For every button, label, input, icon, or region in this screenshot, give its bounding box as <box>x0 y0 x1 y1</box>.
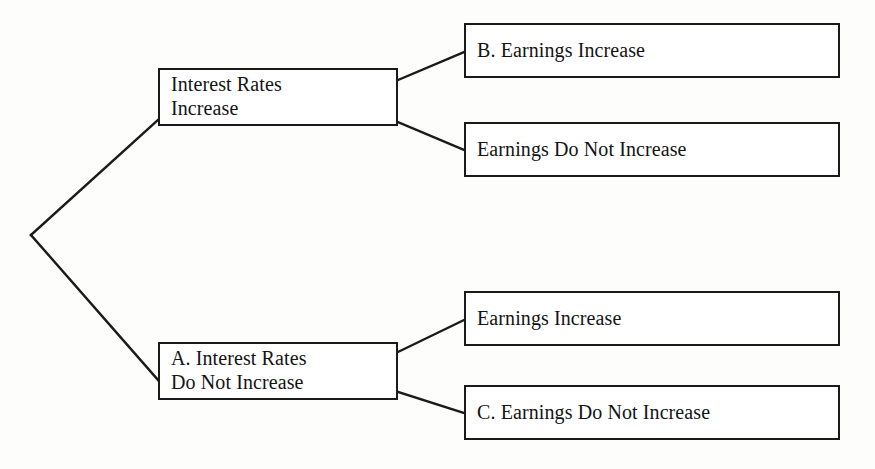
node-earnings-increase-b[interactable]: B. Earnings Increase <box>464 23 840 78</box>
edge-root-to-interest-rates-increase <box>31 120 158 235</box>
node-label-earnings-do-not-increase: Earnings Do Not Increase <box>477 138 687 162</box>
node-label-line: A. Interest Rates <box>171 347 307 371</box>
node-label-earnings-increase: Earnings Increase <box>477 307 621 331</box>
edge-interest-rates-increase-to-b <box>398 52 464 80</box>
node-label-earnings-do-not-increase-c: C. Earnings Do Not Increase <box>477 401 710 425</box>
edge-a-to-earnings-increase <box>398 320 464 352</box>
node-label-line: B. Earnings Increase <box>477 39 645 63</box>
node-label-line: Interest Rates <box>171 73 282 97</box>
node-label-line: Do Not Increase <box>171 371 307 395</box>
node-label-interest-rates-increase: Interest RatesIncrease <box>171 73 282 120</box>
decision-tree-diagram: Interest RatesIncreaseB. Earnings Increa… <box>0 0 875 469</box>
node-label-earnings-increase-b: B. Earnings Increase <box>477 39 645 63</box>
node-interest-rates-increase[interactable]: Interest RatesIncrease <box>158 68 398 126</box>
node-interest-rates-do-not-increase-a[interactable]: A. Interest RatesDo Not Increase <box>158 342 398 400</box>
node-earnings-do-not-increase-c[interactable]: C. Earnings Do Not Increase <box>464 385 840 440</box>
node-earnings-increase[interactable]: Earnings Increase <box>464 291 840 346</box>
edge-a-to-c <box>398 392 464 413</box>
edge-root-to-interest-rates-do-not-increase <box>31 235 158 380</box>
node-label-line: Earnings Do Not Increase <box>477 138 687 162</box>
node-label-line: C. Earnings Do Not Increase <box>477 401 710 425</box>
root-decision-vertex <box>28 232 34 238</box>
node-earnings-do-not-increase[interactable]: Earnings Do Not Increase <box>464 122 840 177</box>
node-label-line: Earnings Increase <box>477 307 621 331</box>
edge-interest-rates-increase-to-no-earnings <box>398 122 464 150</box>
node-label-interest-rates-do-not-increase-a: A. Interest RatesDo Not Increase <box>171 347 307 394</box>
node-label-line: Increase <box>171 97 282 121</box>
